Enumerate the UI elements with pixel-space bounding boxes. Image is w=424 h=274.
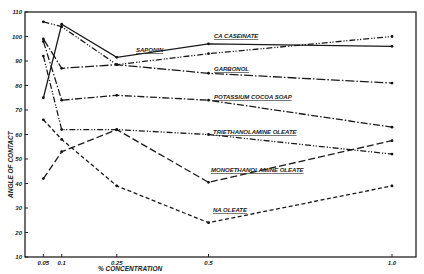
data-point-marker <box>115 128 118 131</box>
x-axis-ticks: 0.050.10.250.51.0 <box>38 254 397 266</box>
data-point-marker <box>207 72 210 75</box>
data-point-marker <box>60 99 63 102</box>
data-point-marker <box>42 55 45 58</box>
data-point-marker <box>207 221 210 224</box>
data-point-marker <box>42 38 45 41</box>
data-point-marker <box>391 82 394 85</box>
data-point-marker <box>391 45 394 48</box>
data-point-marker <box>60 128 63 131</box>
data-point-marker <box>391 35 394 38</box>
y-tick-label: 90 <box>15 58 22 64</box>
y-tick-label: 60 <box>15 132 22 138</box>
y-tick-label: 80 <box>15 83 22 89</box>
x-tick-label: 0.05 <box>38 260 50 266</box>
data-point-marker <box>391 153 394 156</box>
angle-of-contact-chart: 102030405060708090100110 0.050.10.250.51… <box>0 0 424 274</box>
series-label: GARBONOL <box>214 66 249 72</box>
y-tick-label: 70 <box>15 107 22 113</box>
data-point-marker <box>207 99 210 102</box>
data-point-marker <box>207 52 210 55</box>
series-label: SAPONIN <box>136 47 164 53</box>
y-tick-label: 30 <box>15 205 22 211</box>
x-axis-label: % CONCENTRATION <box>98 265 162 272</box>
y-axis-label: ANGLE OF CONTACT <box>7 130 14 199</box>
series-saponin <box>42 20 393 66</box>
data-point-marker <box>115 185 118 188</box>
data-point-marker <box>391 139 394 142</box>
series-label: CA CASEINATE <box>214 33 259 39</box>
series-potassium-cocoa-soap <box>42 40 393 129</box>
x-tick-label: 0.5 <box>204 260 213 266</box>
y-tick-label: 110 <box>12 9 22 15</box>
x-tick-label: 0.1 <box>58 260 67 266</box>
data-point-marker <box>42 40 45 43</box>
x-tick-label: 1.0 <box>388 260 397 266</box>
data-point-marker <box>115 63 118 66</box>
data-point-marker <box>60 150 63 153</box>
data-point-marker <box>391 126 394 129</box>
series-label: MONOETHANOLAMINE OLEATE <box>211 167 305 173</box>
series-label: POTASSIUM COCOA SOAP <box>214 94 293 100</box>
data-point-marker <box>60 25 63 28</box>
y-tick-label: 40 <box>14 181 22 187</box>
data-point-marker <box>207 42 210 45</box>
y-tick-label: 10 <box>15 254 22 260</box>
series-monoethanolamine-oleate <box>42 128 393 183</box>
data-point-marker <box>207 133 210 136</box>
data-point-marker <box>60 67 63 70</box>
data-point-marker <box>207 181 210 184</box>
data-point-marker <box>42 118 45 121</box>
data-series <box>42 20 393 224</box>
data-point-marker <box>115 56 118 59</box>
y-tick-label: 50 <box>15 156 22 162</box>
data-point-marker <box>42 96 45 99</box>
data-point-marker <box>42 20 45 23</box>
series-label: TRIETHANOLAMINE OLEATE <box>213 129 298 135</box>
y-tick-label: 100 <box>12 34 23 40</box>
data-point-marker <box>60 138 63 141</box>
data-point-marker <box>42 177 45 180</box>
data-point-marker <box>60 23 63 26</box>
y-tick-label: 20 <box>14 230 22 236</box>
series-label: NA OLEATE <box>213 207 248 213</box>
data-point-marker <box>391 185 394 188</box>
data-point-marker <box>115 94 118 97</box>
